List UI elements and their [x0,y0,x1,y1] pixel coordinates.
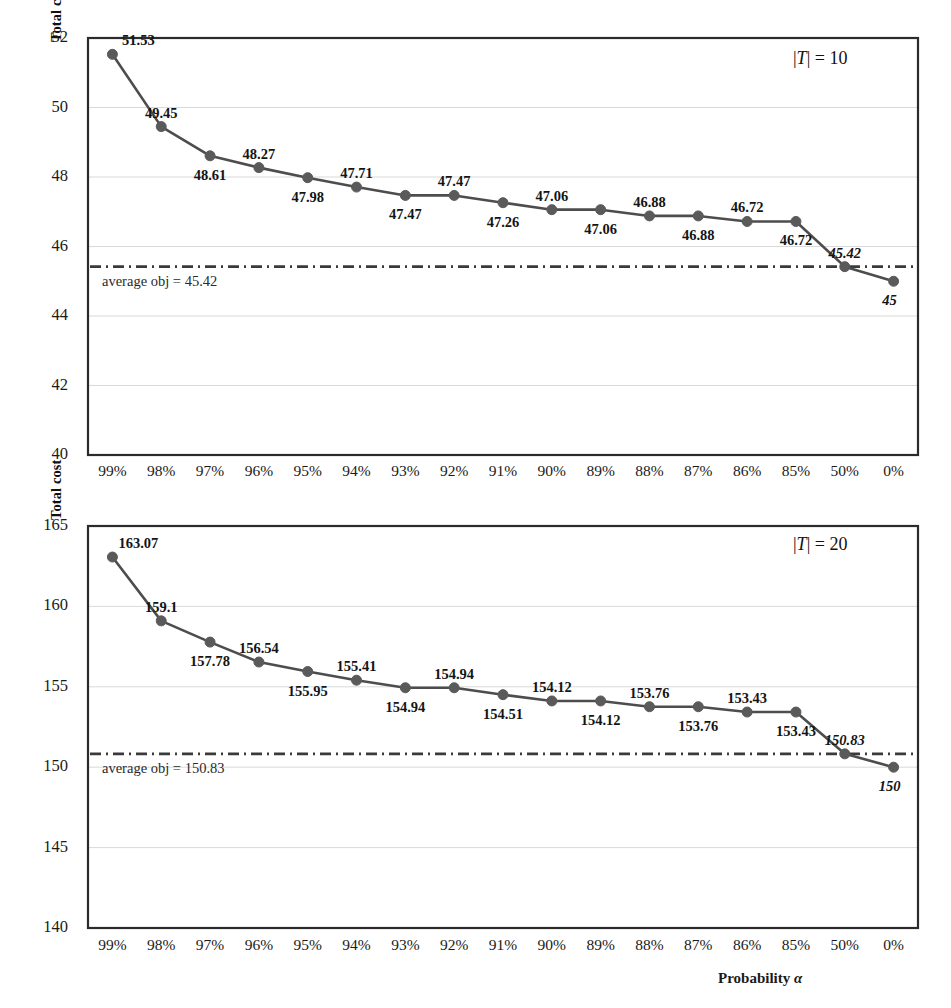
average-obj-note-top: average obj = 45.42 [102,273,217,290]
data-point-label: 153.43 [768,723,824,740]
data-point-label: 159.1 [133,599,189,616]
x-axis-tick-label: 90% [526,936,578,954]
data-point-label: 154.94 [426,666,482,683]
data-point-label: 153.76 [621,685,677,702]
data-point-label: 47.47 [426,173,482,190]
x-axis-tick-label: 88% [623,462,675,480]
x-axis-tick-label: 92% [428,936,480,954]
x-axis-tick-label: 86% [721,936,773,954]
data-point-label: 48.61 [182,167,238,184]
x-axis-tick-label: 90% [526,462,578,480]
plot-area-bottom [0,500,951,1008]
x-axis-tick-label: 97% [184,462,236,480]
x-axis-tick-label: 50% [819,936,871,954]
x-axis-tick-label: 97% [184,936,236,954]
data-point-label: 46.72 [768,232,824,249]
series-annotation-top: |T| = 10 [793,48,847,69]
x-axis-tick-label: 85% [770,936,822,954]
x-axis-tick-label: 85% [770,462,822,480]
data-point-label: 47.71 [329,165,385,182]
data-point-label: 150.83 [817,732,873,749]
data-point-label: 46.72 [719,199,775,216]
series-annotation-bottom: |T| = 20 [793,534,847,555]
x-axis-tick-label: 89% [575,462,627,480]
x-axis-tick-label: 92% [428,462,480,480]
figure-page: Total cost 52504846444240 51.5349.4548.6… [0,0,951,1008]
x-axis-tick-label: 95% [282,462,334,480]
data-point-label: 47.98 [280,189,336,206]
data-point-label: 153.43 [719,690,775,707]
x-axis-tick-label: 96% [233,936,285,954]
x-axis-tick-label: 98% [135,936,187,954]
x-axis-tick-label: 87% [672,936,724,954]
data-point-label: 150 [862,778,918,795]
chart-panel-top: Total cost 52504846444240 51.5349.4548.6… [0,0,951,500]
data-point-label: 155.41 [329,658,385,675]
data-point-label: 47.47 [377,206,433,223]
x-axis-tick-label: 93% [379,936,431,954]
x-axis-tick-label: 99% [86,462,138,480]
data-point-label: 154.94 [377,699,433,716]
x-axis-tick-label: 91% [477,462,529,480]
x-axis-tick-label: 89% [575,936,627,954]
average-obj-note-bottom: average obj = 150.83 [102,760,225,777]
x-axis-tick-label: 94% [331,462,383,480]
x-axis-tick-label: 93% [379,462,431,480]
plot-area-top [0,0,951,500]
x-axis-tick-label: 94% [331,936,383,954]
data-point-label: 157.78 [182,653,238,670]
x-axis-tick-label: 0% [868,462,920,480]
data-point-label: 154.12 [573,712,629,729]
data-point-label: 45.42 [817,245,873,262]
x-axis-tick-label: 98% [135,462,187,480]
data-point-label: 163.07 [110,535,166,552]
data-point-label: 49.45 [133,105,189,122]
data-point-label: 48.27 [231,146,287,163]
chart-panel-bottom: Total cost 165160155150145140 163.07159.… [0,500,951,1008]
data-point-label: 46.88 [621,194,677,211]
data-point-label: 47.06 [573,221,629,238]
data-point-label: 47.06 [524,188,580,205]
x-axis-tick-label: 96% [233,462,285,480]
data-point-label: 156.54 [231,640,287,657]
data-point-label: 154.12 [524,679,580,696]
x-axis-tick-label: 86% [721,462,773,480]
x-axis-tick-label: 87% [672,462,724,480]
data-point-label: 154.51 [475,706,531,723]
x-axis-tick-label: 95% [282,936,334,954]
data-point-label: 155.95 [280,683,336,700]
data-point-label: 46.88 [670,227,726,244]
x-axis-tick-label: 0% [868,936,920,954]
data-point-label: 51.53 [110,32,166,49]
data-point-label: 153.76 [670,718,726,735]
data-point-label: 45 [862,292,918,309]
x-axis-tick-label: 99% [86,936,138,954]
x-axis-title: Probability α [718,970,802,987]
x-axis-tick-label: 91% [477,936,529,954]
x-axis-tick-label: 88% [623,936,675,954]
x-axis-tick-label: 50% [819,462,871,480]
data-point-label: 47.26 [475,214,531,231]
